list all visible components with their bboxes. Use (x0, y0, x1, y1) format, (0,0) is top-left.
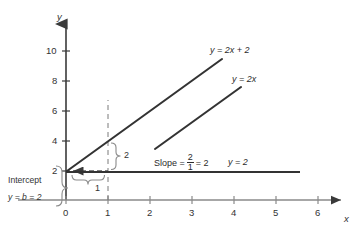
y-tick-label-4: 4 (52, 136, 57, 146)
y-tick-label-10: 10 (46, 46, 57, 56)
linear-function-figure: y x 0 1 2 3 4 5 6 2 4 6 8 10 y = 2x + 2 … (0, 0, 361, 235)
x-tick-label-4: 4 (231, 208, 236, 218)
graph-canvas (0, 0, 361, 235)
y-tick-label-6: 6 (52, 106, 57, 116)
label-line-y-equals-2: y = 2 (228, 158, 248, 167)
x-tick-label-0: 0 (63, 208, 68, 218)
x-tick-label-2: 2 (147, 208, 152, 218)
y-tick-label-2: 2 (52, 166, 57, 176)
slope-result: = 2 (196, 158, 209, 168)
x-tick-label-3: 3 (189, 208, 194, 218)
line-y-equals-2x (155, 87, 241, 149)
x-tick-label-1: 1 (105, 208, 110, 218)
rise-label: 2 (124, 151, 129, 160)
slope-annotation: Slope = 2 1 = 2 (154, 153, 209, 172)
intercept-label-line2: y = b = 2 (8, 193, 41, 202)
intercept-label-line1: Intercept (8, 176, 41, 185)
x-tick-label-5: 5 (273, 208, 278, 218)
x-tick-label-6: 6 (315, 208, 320, 218)
slope-numerator: 2 (187, 153, 194, 162)
y-tick-label-8: 8 (52, 76, 57, 86)
label-line-y-equals-2x: y = 2x (232, 75, 256, 84)
label-line-y-equals-2x-plus-2: y = 2x + 2 (210, 46, 250, 55)
rise-brace (111, 143, 121, 170)
run-label: 1 (95, 184, 100, 193)
slope-prefix: Slope = (154, 158, 185, 168)
x-axis-label: x (344, 214, 349, 224)
y-axis-label: y (57, 12, 62, 22)
slope-fraction: 2 1 (187, 153, 194, 172)
slope-denominator: 1 (187, 162, 194, 172)
